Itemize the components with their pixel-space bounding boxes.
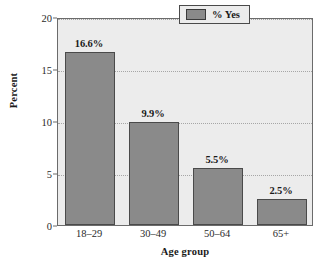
- bar-value-label: 16.6%: [49, 38, 129, 49]
- bar-value-label: 5.5%: [177, 154, 257, 165]
- bar[interactable]: [193, 168, 243, 225]
- bar[interactable]: [257, 199, 307, 225]
- legend[interactable]: % Yes: [179, 5, 250, 24]
- bar-value-label: 2.5%: [241, 185, 321, 196]
- y-axis-tick-label: 15: [11, 65, 57, 76]
- y-axis-tick-label: 10: [11, 117, 57, 128]
- bar[interactable]: [129, 122, 179, 225]
- x-axis-title: Age group: [57, 246, 313, 257]
- legend-swatch-percent-yes: [186, 9, 206, 20]
- y-axis-tick-label: 20: [11, 13, 57, 24]
- bar-chart-figure: Percent 05101520 16.6%9.9%5.5%2.5% 18–29…: [0, 0, 332, 271]
- y-axis-tick-label: 5: [11, 169, 57, 180]
- legend-label-percent-yes: % Yes: [212, 9, 240, 20]
- bar[interactable]: [65, 52, 115, 225]
- x-axis-tick-label: 65+: [241, 228, 321, 239]
- bar-value-label: 9.9%: [113, 108, 193, 119]
- x-axis-ticks: 18–2930–4950–6465+: [57, 228, 313, 244]
